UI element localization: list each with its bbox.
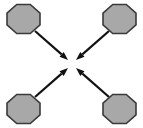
octagon-shape[interactable] (103, 5, 136, 34)
node-bottom-right[interactable] (103, 95, 136, 124)
node-top-right[interactable] (103, 5, 136, 34)
octagon-shape[interactable] (103, 95, 136, 124)
node-top-left[interactable] (7, 5, 40, 34)
diagram-canvas (0, 0, 143, 128)
diagram-svg (0, 0, 143, 128)
node-bottom-left[interactable] (7, 95, 40, 124)
octagon-shape[interactable] (7, 5, 40, 34)
octagon-shape[interactable] (7, 95, 40, 124)
